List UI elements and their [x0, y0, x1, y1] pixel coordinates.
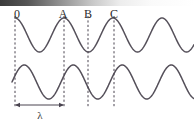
- point-label-a: A: [59, 8, 68, 20]
- waves-group: [12, 18, 194, 99]
- upper-wave: [15, 18, 194, 52]
- wavelength-measure-arrow: [15, 103, 64, 108]
- arrow-head-left: [15, 103, 20, 108]
- lower-wave: [12, 65, 194, 99]
- dashed-marker-lines: [15, 16, 114, 108]
- point-label-b: B: [84, 8, 92, 20]
- wave-diagram-figure: 0ABC λ: [0, 0, 194, 123]
- point-label-0: 0: [14, 8, 20, 20]
- wave-canvas: [0, 0, 194, 123]
- point-label-c: C: [110, 8, 118, 20]
- arrow-head-right: [59, 103, 64, 108]
- wavelength-symbol-label: λ: [37, 110, 42, 121]
